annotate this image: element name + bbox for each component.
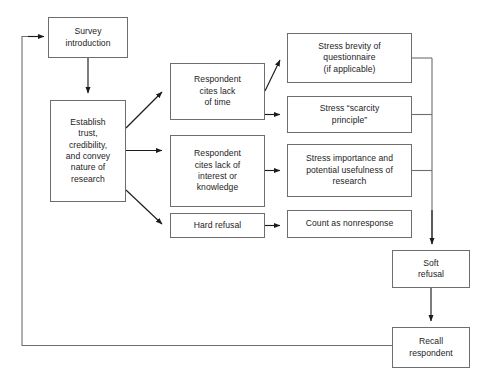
node-stress-importance[interactable]: Stress importance and potential usefulne… <box>287 144 412 197</box>
node-survey-introduction-label: Survey introduction <box>52 26 124 49</box>
node-stress-scarcity-label: Stress “scarcity principle” <box>291 103 408 126</box>
node-recall-respondent[interactable]: Recall respondent <box>392 327 470 368</box>
node-hard-refusal-label: Hard refusal <box>174 220 261 231</box>
node-cites-lack-of-time[interactable]: Respondent cites lack of time <box>170 63 265 120</box>
node-stress-importance-label: Stress importance and potential usefulne… <box>291 153 408 187</box>
flowchart-diagram: Survey introduction Establish trust, cre… <box>0 0 488 385</box>
node-stress-brevity[interactable]: Stress brevity of questionnaire (if appl… <box>287 33 412 83</box>
node-stress-brevity-label: Stress brevity of questionnaire (if appl… <box>291 41 408 75</box>
node-hard-refusal[interactable]: Hard refusal <box>170 213 265 238</box>
node-recall-respondent-label: Recall respondent <box>396 336 466 359</box>
node-survey-introduction[interactable]: Survey introduction <box>48 17 128 58</box>
edge-time-to-brevity <box>265 60 280 91</box>
edge-establish-to-time <box>126 92 162 128</box>
edge-establish-to-hard-refusal <box>126 190 162 224</box>
node-cites-lack-of-interest-label: Respondent cites lack of interest or kno… <box>174 148 261 193</box>
node-cites-lack-of-interest[interactable]: Respondent cites lack of interest or kno… <box>170 135 265 207</box>
node-count-as-nonresponse[interactable]: Count as nonresponse <box>287 210 412 238</box>
node-establish-trust[interactable]: Establish trust, credibility, and convey… <box>50 100 126 202</box>
node-soft-refusal[interactable]: Soft refusal <box>392 250 470 288</box>
node-count-as-nonresponse-label: Count as nonresponse <box>291 218 408 229</box>
node-establish-trust-label: Establish trust, credibility, and convey… <box>54 117 122 185</box>
node-soft-refusal-label: Soft refusal <box>396 258 466 281</box>
node-stress-scarcity[interactable]: Stress “scarcity principle” <box>287 96 412 133</box>
node-cites-lack-of-time-label: Respondent cites lack of time <box>174 74 261 108</box>
